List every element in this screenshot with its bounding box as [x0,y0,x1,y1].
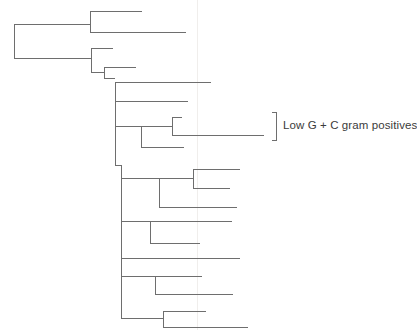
tree-branches [14,12,264,328]
bracket-low-gc-bracket [272,112,277,140]
tree-diagram [0,0,417,330]
phylogenetic-tree-figure: Low G + C gram positives [0,0,417,330]
clade-bracket [272,112,277,140]
